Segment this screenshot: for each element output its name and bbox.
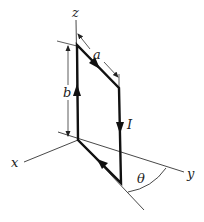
b-tick-top <box>57 41 77 46</box>
diagram-svg <box>0 0 204 222</box>
z-axis-label: z <box>72 6 79 19</box>
axes <box>24 20 184 210</box>
arrow-up-icon <box>73 84 81 96</box>
theta-arc <box>128 168 166 192</box>
current-label: I <box>127 118 132 131</box>
x-axis <box>24 140 78 162</box>
b-label: b <box>63 86 71 99</box>
x-axis-label: x <box>11 156 18 169</box>
theta-label: θ <box>137 172 145 185</box>
arrow-down-icon <box>116 122 124 134</box>
current-arrows <box>73 57 124 169</box>
a-label: a <box>93 48 101 61</box>
diagram-canvas: z x y a b I θ <box>0 0 204 222</box>
y-axis-label: y <box>187 167 194 180</box>
